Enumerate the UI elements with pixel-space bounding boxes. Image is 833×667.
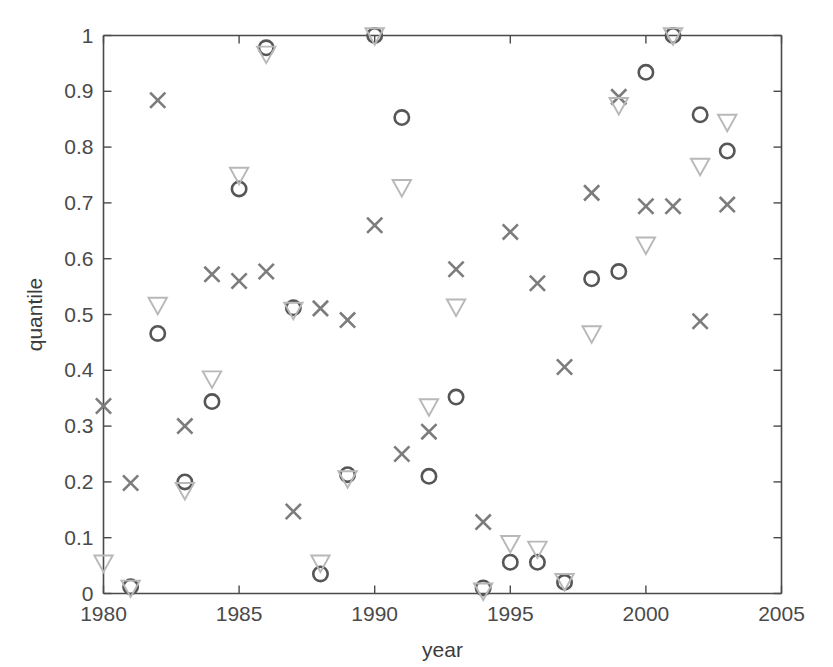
data-point-triangle [149,298,167,315]
y-tick-label: 0.9 [64,79,93,102]
data-point-triangle [447,299,465,316]
y-tick-label: 0.7 [64,191,93,214]
data-point-cross [394,446,409,461]
y-tick-label: 0.8 [64,135,93,158]
y-tick-label: 0.3 [64,414,93,437]
x-tick-label: 1985 [216,602,263,625]
data-point-triangle [203,371,221,388]
data-point-circle [178,475,192,489]
series-circle [123,28,734,595]
data-point-cross [693,314,708,329]
data-point-circle [720,144,734,158]
data-point-cross [530,276,545,291]
data-point-circle [422,469,436,483]
data-point-triangle [691,159,709,176]
data-point-circle [395,110,409,124]
data-point-cross [476,514,491,529]
data-point-cross [259,264,274,279]
axes-group [104,36,782,594]
y-axis-title: quantile [23,278,46,352]
data-point-cross [448,262,463,277]
axis-labels-group: 19801985199019952000200500.10.20.30.40.5… [23,24,805,661]
data-point-cross [421,424,436,439]
data-point-triangle [393,180,411,197]
y-tick-label: 0 [82,582,94,605]
data-point-circle [612,264,626,278]
data-point-circle [151,326,165,340]
data-point-circle [503,555,517,569]
data-point-circle [693,108,707,122]
data-point-cross [340,312,355,327]
data-point-cross [177,419,192,434]
data-point-cross [584,185,599,200]
y-tick-label: 0.4 [64,358,94,381]
x-tick-label: 2005 [758,602,805,625]
y-tick-label: 0.6 [64,247,93,270]
data-point-cross [232,273,247,288]
series-triangle-down [94,28,736,600]
x-axis-title: year [422,638,463,661]
data-point-cross [150,93,165,108]
data-point-cross [611,89,626,104]
data-point-triangle [637,238,655,255]
data-point-cross [638,199,653,214]
data-point-circle [449,390,463,404]
y-tick-label: 0.5 [64,303,93,326]
series-cross [96,89,735,529]
x-tick-label: 1990 [351,602,398,625]
data-point-circle [584,272,598,286]
y-tick-label: 0.2 [64,470,93,493]
data-point-cross [720,197,735,212]
data-point-cross [204,267,219,282]
data-point-cross [123,475,138,490]
data-point-cross [665,199,680,214]
x-tick-label: 1980 [80,602,127,625]
data-point-triangle [501,536,519,553]
data-point-cross [503,224,518,239]
x-tick-label: 1995 [487,602,534,625]
data-point-cross [557,359,572,374]
y-tick-label: 1 [82,24,94,47]
data-point-cross [367,218,382,233]
data-point-triangle [610,98,628,115]
data-point-cross [313,301,328,316]
data-point-cross [286,504,301,519]
x-tick-label: 2000 [623,602,670,625]
data-point-circle [639,65,653,79]
data-point-circle [205,394,219,408]
plot-canvas: 19801985199019952000200500.10.20.30.40.5… [0,0,833,667]
data-point-triangle [420,399,438,416]
y-tick-label: 0.1 [64,526,93,549]
data-point-triangle [582,326,600,343]
scatter-chart-figure: 19801985199019952000200500.10.20.30.40.5… [0,0,833,667]
data-markers-group [94,28,736,600]
data-point-triangle [718,115,736,132]
